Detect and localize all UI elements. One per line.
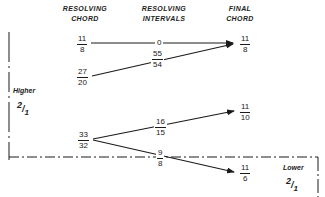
resolving-chord-27-20: 27 20 (76, 68, 89, 87)
resolving-chord-11-8: 11 8 (76, 35, 88, 54)
header-resolving-chord-line1: RESOLVING (57, 4, 113, 14)
fraction-numerator: 55 (152, 50, 163, 60)
final-chord-11-8: 11 8 (239, 35, 251, 54)
interval-16-15: 16 15 (154, 118, 167, 137)
lower-label: Lower (283, 164, 304, 171)
fraction-denominator: 8 (80, 45, 84, 54)
lower-ratio-den: 1 (294, 184, 298, 193)
fraction-denominator: 54 (153, 60, 162, 69)
interval-55-54: 55 54 (151, 50, 164, 69)
fraction-numerator: 33 (78, 131, 89, 141)
lower-ratio: 2/1 (286, 176, 298, 193)
fraction-denominator: 32 (79, 141, 88, 150)
final-chord-11-6: 11 6 (239, 164, 251, 183)
header-resolving-intervals-line1: RESOLVING (132, 4, 196, 14)
header-resolving-chord: RESOLVING CHORD (57, 4, 113, 24)
fraction-numerator: 27 (77, 68, 88, 78)
higher-ratio-den: 1 (25, 108, 29, 117)
header-final-chord: FINAL CHORD (220, 4, 260, 24)
fraction-denominator: 20 (78, 78, 87, 87)
fraction-numerator: 11 (240, 164, 250, 174)
final-chord-11-10: 11 10 (239, 103, 251, 122)
fraction-denominator: 15 (156, 128, 165, 137)
header-final-chord-line1: FINAL (220, 4, 260, 14)
header-resolving-intervals: RESOLVING INTERVALS (132, 4, 196, 24)
resolving-chord-33-32: 33 32 (77, 131, 90, 150)
higher-ratio: 2/1 (17, 100, 29, 117)
fraction-numerator: 11 (240, 103, 250, 113)
higher-label: Higher (13, 87, 35, 94)
header-resolving-chord-line2: CHORD (57, 14, 113, 24)
interval-0: 0 (155, 38, 163, 47)
fraction-numerator: 11 (240, 35, 250, 45)
fraction-numerator: 11 (77, 35, 87, 45)
header-resolving-intervals-line2: INTERVALS (132, 14, 196, 24)
fraction-numerator: 9 (157, 149, 163, 159)
fraction-denominator: 8 (243, 45, 247, 54)
fraction-denominator: 10 (241, 113, 250, 122)
fraction-numerator: 16 (155, 118, 166, 128)
fraction-denominator: 8 (158, 159, 162, 168)
fraction-denominator: 6 (243, 174, 247, 183)
header-final-chord-line2: CHORD (220, 14, 260, 24)
interval-9-8: 9 8 (156, 149, 164, 168)
